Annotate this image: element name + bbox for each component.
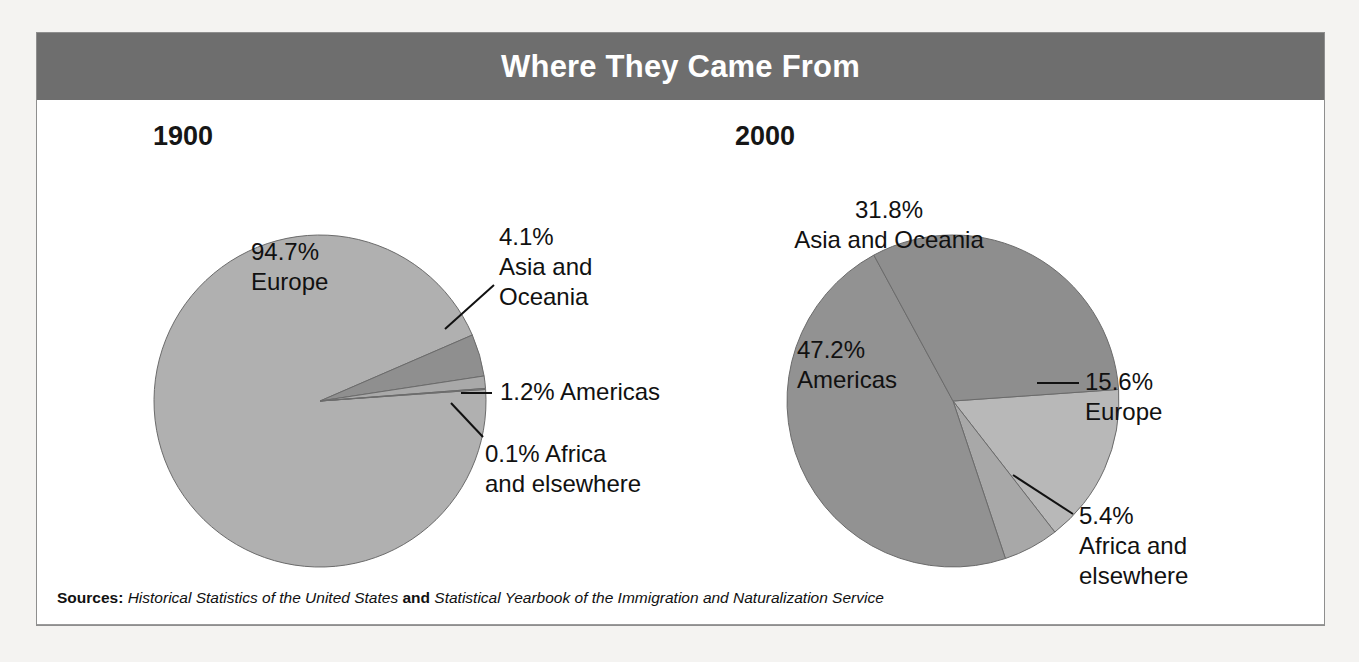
slice-label-line: Americas [797, 366, 897, 393]
slice-label-line: 1.2% Americas [500, 378, 660, 405]
slice-label-africa-and-elsewhere: 0.1% Africaand elsewhere [485, 440, 641, 497]
slice-label-line: 0.1% Africa [485, 440, 607, 467]
slice-label-line: Europe [251, 268, 328, 295]
source-divider [37, 624, 1324, 625]
slice-label-line: 4.1% [499, 223, 554, 250]
year-label-1900: 1900 [153, 121, 213, 151]
chart-title-bar: Where They Came From [37, 33, 1324, 100]
slice-label-line: Oceania [499, 283, 589, 310]
slice-label-americas: 1.2% Americas [500, 378, 660, 405]
pie-1900: 190094.7%Europe4.1%Asia andOceania1.2% A… [153, 121, 660, 567]
slice-label-asia-and-oceania: 31.8%Asia and Oceania [794, 196, 984, 253]
pie-chart-svg: 190094.7%Europe4.1%Asia andOceania1.2% A… [37, 100, 1324, 560]
source-conjunction: and [402, 589, 430, 606]
chart-figure-frame: Where They Came From 190094.7%Europe4.1%… [36, 32, 1325, 626]
source-note: Sources: Historical Statistics of the Un… [57, 589, 884, 607]
slice-label-africa-and-elsewhere: 5.4%Africa andelsewhere [1079, 502, 1188, 589]
slice-label-line: 5.4% [1079, 502, 1134, 529]
slice-label-line: Europe [1085, 398, 1162, 425]
slice-label-line: 47.2% [797, 336, 865, 363]
slice-label-asia-and-oceania: 4.1%Asia andOceania [499, 223, 592, 310]
source-title-two: Statistical Yearbook of the Immigration … [434, 589, 883, 606]
page-title: Where They Came From [37, 33, 1324, 100]
slice-label-line: 94.7% [251, 238, 319, 265]
pie-2000: 200031.8%Asia and Oceania15.6%Europe5.4%… [735, 121, 1188, 589]
pie-charts-plot-area: 190094.7%Europe4.1%Asia andOceania1.2% A… [37, 100, 1324, 560]
source-label: Sources: [57, 589, 123, 606]
slice-label-line: Asia and Oceania [794, 226, 984, 253]
slice-label-line: Asia and [499, 253, 592, 280]
slice-label-line: elsewhere [1079, 562, 1188, 589]
year-label-2000: 2000 [735, 121, 795, 151]
source-title-one: Historical Statistics of the United Stat… [128, 589, 399, 606]
slice-label-line: and elsewhere [485, 470, 641, 497]
slice-label-line: 15.6% [1085, 368, 1153, 395]
slice-label-line: 31.8% [855, 196, 923, 223]
slice-label-line: Africa and [1079, 532, 1187, 559]
